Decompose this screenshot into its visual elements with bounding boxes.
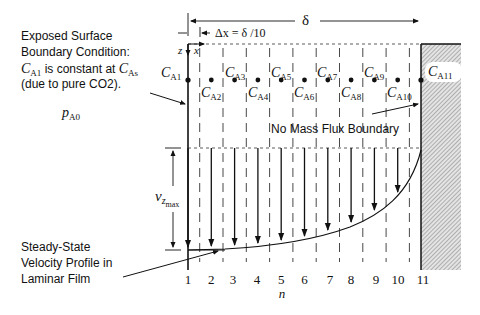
svg-text:10: 10 [392, 272, 405, 287]
svg-text:Velocity Profile in: Velocity Profile in [21, 256, 112, 270]
surface-leader-arrow [150, 93, 185, 104]
svg-text:CA2: CA2 [201, 85, 221, 102]
noflux-leader-arrow [372, 104, 418, 114]
node-numbers: 1 2 3 4 5 6 7 8 9 10 11 [185, 272, 430, 287]
velocity-profile-annotation: Steady-State Velocity Profile in Laminar… [21, 240, 112, 286]
finite-difference-diagram: δ Δx = δ /10 z x CA1 CA2 CA3 CA4 CA5 CA6… [0, 0, 480, 315]
vzmax-label: vzmax [155, 188, 179, 209]
svg-text:CA1: CA1 [161, 65, 181, 82]
svg-text:4: 4 [254, 272, 261, 287]
svg-text:CA7: CA7 [317, 65, 338, 82]
node-dots [185, 77, 423, 82]
delta-label: δ [302, 12, 309, 28]
svg-text:CA10: CA10 [387, 85, 412, 102]
pa0-label: pA0 [61, 105, 80, 122]
svg-text:6: 6 [301, 272, 308, 287]
svg-text:Steady-State: Steady-State [21, 240, 91, 254]
z-axis-label: z [177, 44, 183, 56]
no-flux-label: No Mass Flux Boundary [271, 122, 399, 136]
diagram-canvas: δ Δx = δ /10 z x CA1 CA2 CA3 CA4 CA5 CA6… [0, 0, 480, 315]
vzmax-dimension [165, 148, 181, 250]
velocity-leader-arrow [123, 251, 218, 277]
boundary-condition-annotation: Exposed Surface Boundary Condition: CA1 … [21, 29, 139, 91]
svg-text:Exposed Surface: Exposed Surface [21, 29, 113, 43]
svg-text:CA8: CA8 [341, 85, 362, 102]
svg-text:(due to pure CO2).: (due to pure CO2). [21, 77, 121, 91]
svg-text:7: 7 [327, 272, 334, 287]
svg-text:9: 9 [373, 272, 380, 287]
svg-text:3: 3 [230, 272, 237, 287]
x-axis-label: x [193, 44, 199, 56]
svg-text:CA3: CA3 [225, 65, 246, 82]
concentration-labels: CA1 CA2 CA3 CA4 CA5 CA6 CA7 CA8 CA9 CA10 [161, 65, 412, 102]
svg-text:CA1 is constant at CAs: CA1 is constant at CAs [21, 61, 139, 78]
dx-label: Δx = δ /10 [215, 26, 265, 40]
svg-text:11: 11 [417, 272, 430, 287]
svg-text:Laminar Film: Laminar Film [21, 272, 90, 286]
svg-text:8: 8 [348, 272, 355, 287]
svg-text:1: 1 [185, 272, 192, 287]
svg-text:CA5: CA5 [271, 65, 292, 82]
svg-text:2: 2 [208, 272, 215, 287]
delta-dimension [178, 13, 418, 37]
n-axis-label: n [279, 286, 286, 301]
svg-text:Boundary Condition:: Boundary Condition: [21, 45, 130, 59]
svg-text:CA4: CA4 [248, 85, 269, 102]
svg-text:CA9: CA9 [364, 65, 385, 82]
svg-text:CA6: CA6 [294, 85, 315, 102]
svg-text:5: 5 [278, 272, 285, 287]
